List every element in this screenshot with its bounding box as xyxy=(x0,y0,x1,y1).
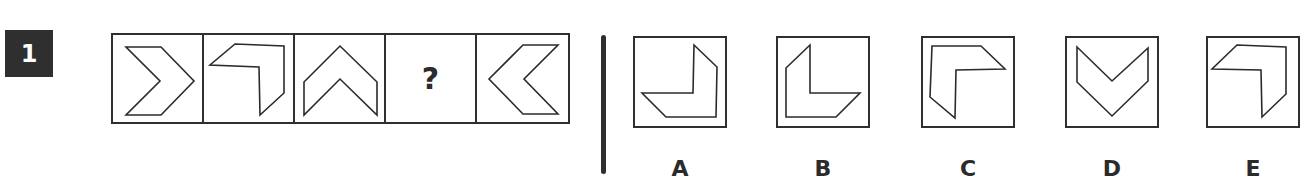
option-a[interactable]: A xyxy=(633,36,727,181)
chevron-down-icon xyxy=(1067,38,1157,126)
question-number: 1 xyxy=(21,40,38,68)
missing-item-question-mark: ? xyxy=(422,61,439,96)
angle-bottom-right-icon xyxy=(635,38,725,126)
sequence-strip: ? xyxy=(111,33,570,124)
angle-top-right-icon xyxy=(205,35,292,122)
section-divider xyxy=(601,35,606,174)
option-b[interactable]: B xyxy=(776,36,870,181)
option-e-label: E xyxy=(1245,156,1260,181)
sequence-cell-2 xyxy=(204,35,295,122)
sequence-cell-1 xyxy=(113,35,204,122)
option-c[interactable]: C xyxy=(921,36,1015,181)
chevron-right-icon xyxy=(114,35,201,122)
chevron-left-icon xyxy=(479,35,566,122)
option-a-box[interactable] xyxy=(633,36,727,128)
angle-top-left-icon xyxy=(923,38,1013,126)
chevron-up-icon xyxy=(296,35,383,122)
option-e[interactable]: E xyxy=(1206,36,1300,181)
sequence-cell-3 xyxy=(295,35,386,122)
option-a-label: A xyxy=(671,156,688,181)
angle-top-right-icon xyxy=(1208,38,1298,126)
sequence-cell-5 xyxy=(477,35,568,122)
sequence-cell-missing: ? xyxy=(386,35,477,122)
angle-bottom-left-icon xyxy=(778,38,868,126)
question-number-badge: 1 xyxy=(5,30,53,77)
option-d[interactable]: D xyxy=(1065,36,1159,181)
option-c-label: C xyxy=(960,156,976,181)
option-d-box[interactable] xyxy=(1065,36,1159,128)
option-c-box[interactable] xyxy=(921,36,1015,128)
option-b-box[interactable] xyxy=(776,36,870,128)
option-b-label: B xyxy=(815,156,832,181)
option-d-label: D xyxy=(1103,156,1121,181)
option-e-box[interactable] xyxy=(1206,36,1300,128)
